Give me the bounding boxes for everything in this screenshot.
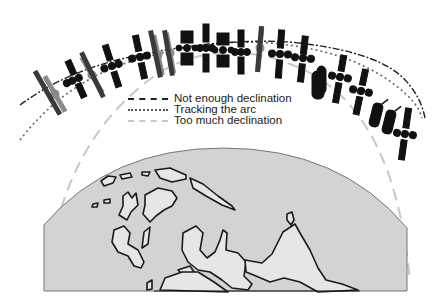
- satellite-icon: [176, 31, 198, 65]
- satellite-icon: [267, 29, 293, 78]
- dotted-line-icon: [128, 109, 168, 111]
- legend-item-too-much: Too much declination: [128, 115, 292, 126]
- satellite-icon: [212, 33, 234, 67]
- declination-diagram: [0, 0, 447, 306]
- satellite-icon: [312, 66, 326, 99]
- dash-dot-line-icon: [128, 98, 168, 100]
- satellite-icon: [232, 30, 251, 74]
- legend: Not enough declination Tracking the arc …: [128, 93, 292, 126]
- earth-map: [44, 148, 407, 292]
- legend-label: Too much declination: [174, 115, 282, 126]
- dashed-line-icon: [128, 120, 168, 122]
